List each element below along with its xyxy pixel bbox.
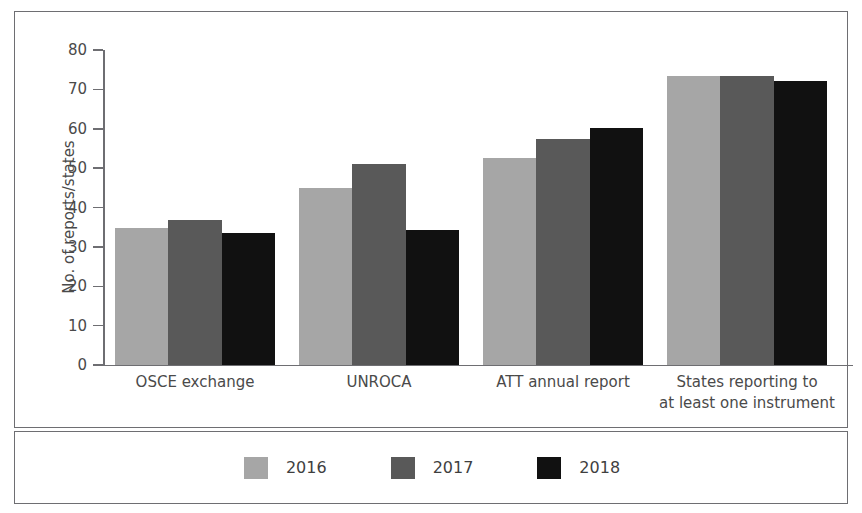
bar-2016-3[interactable]: [667, 76, 721, 365]
legend-panel: 201620172018: [14, 431, 848, 504]
category-label-line: at least one instrument: [637, 393, 857, 414]
legend-swatch-icon: [537, 457, 561, 479]
bar-2018-1[interactable]: [406, 230, 460, 365]
bar-2018-3[interactable]: [774, 81, 828, 365]
legend-label: 2016: [286, 458, 327, 477]
legend-entry-2016[interactable]: 2016: [244, 457, 327, 479]
y-axis-tick-label: 20: [68, 277, 87, 295]
y-axis-tick-label: 80: [68, 41, 87, 59]
bar-2018-2[interactable]: [590, 128, 644, 365]
y-axis-tick-label: 50: [68, 159, 87, 177]
bar-2017-2[interactable]: [536, 139, 590, 365]
y-axis-tick-label: 10: [68, 317, 87, 335]
y-axis-tick: [93, 246, 103, 248]
legend: 201620172018: [15, 432, 849, 503]
y-axis-tick: [93, 49, 103, 51]
bar-2018-0[interactable]: [222, 233, 276, 365]
legend-swatch-icon: [391, 457, 415, 479]
y-axis-tick-label: 40: [68, 199, 87, 217]
y-axis-tick: [93, 167, 103, 169]
y-axis-tick: [93, 207, 103, 209]
y-axis-tick: [93, 286, 103, 288]
legend-entry-2017[interactable]: 2017: [391, 457, 474, 479]
bar-2016-0[interactable]: [115, 228, 169, 365]
legend-swatch-icon: [244, 457, 268, 479]
chart-panel: No. of reports/states 01020304050607080 …: [14, 11, 848, 428]
plot-area: [103, 50, 839, 365]
bar-2016-1[interactable]: [299, 188, 353, 365]
bar-2017-0[interactable]: [168, 220, 222, 365]
y-axis-tick: [93, 89, 103, 91]
y-axis-tick: [93, 325, 103, 327]
y-axis-tick: [93, 128, 103, 130]
figure: No. of reports/states 01020304050607080 …: [0, 0, 862, 513]
legend-label: 2017: [433, 458, 474, 477]
bar-2017-1[interactable]: [352, 164, 406, 365]
bar-2017-3[interactable]: [720, 76, 774, 365]
category-label-line: States reporting to: [637, 372, 857, 393]
legend-entry-2018[interactable]: 2018: [537, 457, 620, 479]
bar-2016-2[interactable]: [483, 158, 537, 365]
x-axis-category-label: States reporting toat least one instrume…: [637, 372, 857, 414]
y-axis-tick: [93, 364, 103, 366]
y-axis-tick-label: 60: [68, 120, 87, 138]
y-axis-tick-label: 70: [68, 80, 87, 98]
legend-label: 2018: [579, 458, 620, 477]
y-axis-tick-label: 30: [68, 238, 87, 256]
